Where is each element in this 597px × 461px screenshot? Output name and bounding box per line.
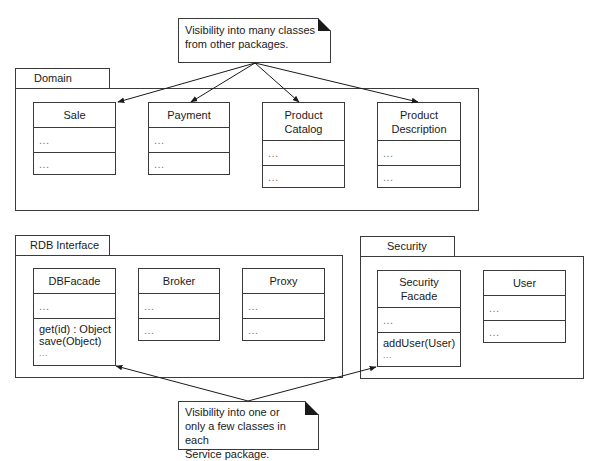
attribute: ...	[383, 147, 394, 159]
class-operations: ...	[263, 166, 344, 187]
class-attributes: ...	[484, 296, 565, 321]
class-user[interactable]: User ... ...	[483, 270, 566, 343]
package-tab-security: Security	[360, 236, 455, 257]
operation: ...	[383, 349, 460, 361]
operation: addUser(User)	[383, 337, 460, 349]
class-name: Product Catalog	[263, 103, 344, 141]
class-name: Payment	[149, 103, 229, 128]
class-operations: addUser(User) ...	[378, 333, 460, 366]
class-attributes: ...	[34, 128, 115, 153]
class-name: User	[484, 271, 565, 296]
class-operations: ...	[34, 153, 115, 174]
class-product-catalog[interactable]: Product Catalog ... ...	[262, 102, 345, 188]
class-attributes: ...	[139, 294, 219, 319]
package-tab-domain: Domain	[15, 68, 110, 89]
class-name-line: User	[513, 276, 536, 290]
class-name-line: Proxy	[269, 274, 297, 288]
operation: ...	[383, 171, 460, 183]
note-bottom-line-1: Visibility into one or	[185, 405, 312, 419]
class-operations: get(id) : Object save(Object) ...	[34, 319, 115, 365]
class-name-line: Product	[400, 108, 438, 122]
package-name-domain: Domain	[34, 72, 72, 84]
class-attributes: ...	[149, 128, 229, 153]
class-attributes: ...	[378, 308, 460, 333]
class-operations: ...	[378, 166, 460, 187]
class-name-line: DBFacade	[49, 274, 101, 288]
class-operations: ...	[243, 319, 324, 340]
class-payment[interactable]: Payment ... ...	[148, 102, 230, 175]
attribute: ...	[248, 300, 259, 312]
attribute: ...	[154, 134, 165, 146]
class-product-description[interactable]: Product Description ... ...	[377, 102, 461, 188]
class-name-line: Description	[391, 122, 446, 136]
operation: save(Object)	[39, 335, 115, 347]
class-attributes: ...	[378, 141, 460, 166]
class-attributes: ...	[243, 294, 324, 319]
class-security-facade[interactable]: Security Facade ... addUser(User) ...	[377, 270, 461, 367]
note-top-line-1: Visibility into many classes	[185, 23, 324, 37]
note-bottom-line-2: only a few classes in each	[185, 419, 312, 447]
operation: ...	[154, 158, 229, 170]
operation: ...	[248, 324, 324, 336]
attribute: ...	[39, 300, 50, 312]
operation: ...	[489, 326, 565, 338]
operation: ...	[39, 158, 115, 170]
class-operations: ...	[149, 153, 229, 174]
package-name-security: Security	[387, 240, 427, 252]
operation: ...	[144, 324, 219, 336]
attribute: ...	[383, 314, 394, 326]
class-name-line: Broker	[163, 274, 195, 288]
class-dbfacade[interactable]: DBFacade ... get(id) : Object save(Objec…	[33, 268, 116, 366]
class-name: Security Facade	[378, 271, 460, 308]
operation: ...	[39, 347, 115, 359]
class-name: Sale	[34, 103, 115, 128]
class-name-line: Catalog	[285, 122, 323, 136]
note-bottom: Visibility into one or only a few classe…	[178, 401, 319, 450]
class-sale[interactable]: Sale ... ...	[33, 102, 116, 175]
class-proxy[interactable]: Proxy ... ...	[242, 268, 325, 341]
attribute: ...	[39, 134, 50, 146]
class-name: Proxy	[243, 269, 324, 294]
class-name-line: Security	[399, 275, 439, 289]
attribute: ...	[268, 147, 279, 159]
class-name-line: Product	[285, 108, 323, 122]
operation: get(id) : Object	[39, 323, 115, 335]
package-name-rdb-interface: RDB Interface	[30, 239, 99, 251]
note-bottom-line-3: Service package.	[185, 447, 312, 461]
attribute: ...	[489, 302, 500, 314]
operation: ...	[268, 171, 344, 183]
class-broker[interactable]: Broker ... ...	[138, 268, 220, 341]
package-tab-rdb-interface: RDB Interface	[15, 235, 110, 256]
class-name: Product Description	[378, 103, 460, 141]
note-top-line-2: from other packages.	[185, 37, 324, 51]
class-attributes: ...	[34, 294, 115, 319]
class-name-line: Sale	[63, 108, 85, 122]
class-operations: ...	[484, 321, 565, 342]
class-name: Broker	[139, 269, 219, 294]
class-name-line: Payment	[167, 108, 210, 122]
class-attributes: ...	[263, 141, 344, 166]
class-name: DBFacade	[34, 269, 115, 294]
class-operations: ...	[139, 319, 219, 340]
note-top: Visibility into many classes from other …	[178, 18, 331, 63]
attribute: ...	[144, 300, 155, 312]
class-name-line: Facade	[401, 289, 438, 303]
